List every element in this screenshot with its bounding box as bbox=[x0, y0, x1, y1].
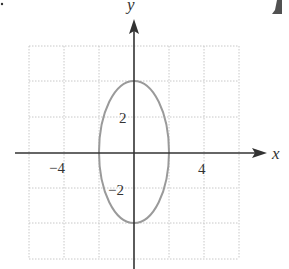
cropped-period-mark bbox=[1, 3, 3, 5]
x-tick-label-neg4: −4 bbox=[49, 160, 65, 176]
y-axis-label: y bbox=[125, 0, 135, 14]
ellipse-plot: x y −4 4 2 −2 bbox=[0, 0, 289, 269]
x-axis-label: x bbox=[271, 144, 280, 163]
y-axis bbox=[129, 19, 139, 269]
y-tick-label-neg2: −2 bbox=[108, 182, 124, 198]
x-axis bbox=[15, 148, 267, 158]
y-tick-label-2: 2 bbox=[119, 110, 127, 126]
cropped-glyph-fragment bbox=[272, 0, 282, 14]
x-tick-label-4: 4 bbox=[198, 161, 206, 177]
